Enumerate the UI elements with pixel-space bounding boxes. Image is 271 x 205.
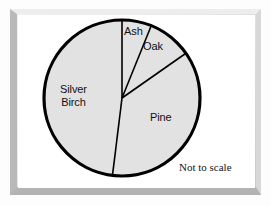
slice-label-silver-birch: Silver Birch [60, 83, 87, 108]
slice-label-oak: Oak [143, 41, 163, 53]
slice-label-silver-birch-line2: Birch [60, 96, 87, 109]
pie-chart: Ash Oak Pine Silver Birch Not to scale [0, 0, 271, 205]
slice-label-silver-birch-line1: Silver [60, 83, 87, 96]
slice-label-ash: Ash [124, 26, 143, 38]
slice-label-pine: Pine [150, 112, 172, 124]
scanned-figure: Ash Oak Pine Silver Birch Not to scale [0, 0, 271, 205]
not-to-scale-note: Not to scale [179, 161, 232, 173]
